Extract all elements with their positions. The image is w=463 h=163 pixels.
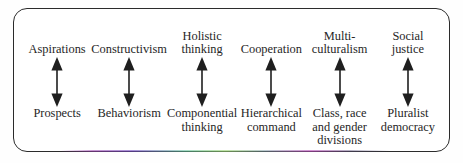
arrow-zone (400, 58, 416, 105)
double-headed-vertical-arrow-icon (400, 57, 416, 107)
arrow-zone (194, 58, 210, 105)
double-headed-vertical-arrow-icon (263, 57, 279, 107)
arrow-zone (263, 58, 279, 105)
concept-pair-column: Holistic thinking Componential thinking (167, 8, 237, 152)
concept-pair-column: Multi- culturalism Class, race and gende… (305, 8, 373, 152)
arrow-zone (121, 58, 137, 105)
arrow-zone (332, 58, 348, 105)
concept-label-top: Constructivism (91, 8, 167, 58)
concept-label-top: Holistic thinking (181, 8, 222, 58)
concept-label-bottom: Componential thinking (167, 105, 237, 152)
concept-label-bottom: Pluralist democracy (381, 105, 435, 152)
double-headed-vertical-arrow-icon (194, 57, 210, 107)
concept-pair-column: Constructivism Behaviorism (91, 8, 167, 152)
concept-pair-column: Cooperation Hierarchical command (237, 8, 305, 152)
concept-pair-column: Social justice Pluralist democracy (374, 8, 442, 152)
double-headed-vertical-arrow-icon (332, 57, 348, 107)
concept-pair-column: Aspirations Prospects (23, 8, 91, 152)
concept-label-bottom: Class, race and gender divisions (312, 105, 367, 152)
diagram-root: Aspirations Prospects Constructivism (0, 0, 463, 163)
concept-label-top: Aspirations (29, 8, 86, 58)
concept-label-bottom: Prospects (33, 105, 81, 152)
concept-label-top: Cooperation (241, 8, 302, 58)
arrow-zone (49, 58, 65, 105)
double-headed-vertical-arrow-icon (49, 57, 65, 107)
concept-pair-columns: Aspirations Prospects Constructivism (13, 8, 450, 152)
concept-label-top: Social justice (392, 8, 424, 58)
concept-label-top: Multi- culturalism (312, 8, 368, 58)
double-headed-vertical-arrow-icon (121, 57, 137, 107)
concept-label-bottom: Behaviorism (97, 105, 160, 152)
concept-label-bottom: Hierarchical command (241, 105, 302, 152)
